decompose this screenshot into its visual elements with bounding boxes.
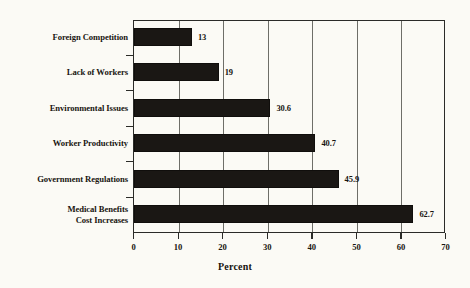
- x-axis-tick-20: [222, 233, 223, 239]
- category-label-5-line1: Medical Benefits: [67, 204, 128, 214]
- bar-value-4: 45.9: [345, 170, 359, 188]
- x-axis-tick-70: [445, 233, 446, 239]
- x-axis-label-50: 50: [352, 242, 361, 252]
- x-axis-label-20: 20: [218, 242, 227, 252]
- x-axis-label-40: 40: [308, 242, 317, 252]
- gridline-20: [223, 21, 224, 232]
- category-label-2-text: Environmental Issues: [50, 103, 128, 113]
- category-label-4: Government Regulations: [0, 174, 128, 185]
- bar-value-0: 13: [198, 28, 206, 46]
- bar-4: [134, 170, 339, 188]
- category-label-3: Worker Productivity: [0, 138, 128, 149]
- bar-5: [134, 205, 413, 223]
- bar-2: [134, 99, 270, 117]
- category-label-0: Foreign Competition: [0, 32, 128, 43]
- gridline-10: [179, 21, 180, 232]
- x-axis-tick-40: [311, 233, 312, 239]
- x-axis-tick-50: [356, 233, 357, 239]
- bar-value-1: 19: [225, 63, 233, 81]
- category-label-4-text: Government Regulations: [37, 174, 128, 184]
- bar-0: [134, 28, 192, 46]
- category-label-5-line2: Cost Increases: [0, 215, 128, 226]
- category-label-5: Medical Benefits Cost Increases: [0, 204, 128, 225]
- gridline-30: [268, 21, 269, 232]
- x-axis-label-30: 30: [263, 242, 272, 252]
- category-label-2: Environmental Issues: [0, 103, 128, 114]
- gridline-40: [312, 21, 313, 232]
- x-axis-label-0: 0: [131, 242, 135, 252]
- category-label-1: Lack of Workers: [0, 67, 128, 78]
- bar-3: [134, 134, 315, 152]
- x-axis-label-70: 70: [441, 242, 450, 252]
- category-label-3-text: Worker Productivity: [53, 138, 128, 148]
- bar-value-2: 30.6: [276, 99, 290, 117]
- x-axis-title: Percent: [0, 261, 470, 272]
- gridline-50: [357, 21, 358, 232]
- bar-value-5: 62.7: [419, 205, 433, 223]
- x-axis-label-60: 60: [397, 242, 406, 252]
- category-label-1-text: Lack of Workers: [67, 67, 128, 77]
- bar-chart-figure: Foreign Competition Lack of Workers Envi…: [0, 0, 470, 288]
- x-axis-tick-60: [400, 233, 401, 239]
- category-label-0-text: Foreign Competition: [52, 32, 128, 42]
- plot-area: 13 19 30.6 40.7 45.9 62.7: [133, 20, 445, 233]
- x-axis-tick-30: [267, 233, 268, 239]
- x-axis-tick-0: [133, 233, 134, 239]
- bar-1: [134, 63, 219, 81]
- gridline-60: [401, 21, 402, 232]
- x-axis-tick-10: [178, 233, 179, 239]
- bar-value-3: 40.7: [321, 134, 335, 152]
- x-axis-label-10: 10: [174, 242, 183, 252]
